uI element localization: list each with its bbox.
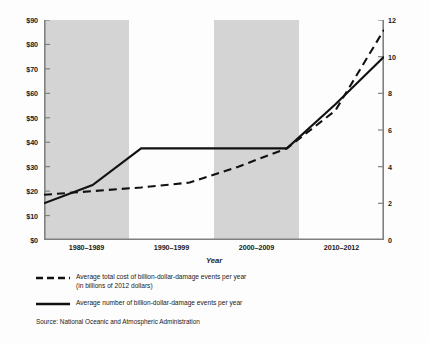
- right-axis-ticklabel: 6: [388, 126, 392, 135]
- right-axis-ticklabel: 0: [388, 236, 392, 245]
- left-axis-ticklabel: $60: [26, 89, 38, 98]
- shaded-band: [214, 20, 299, 240]
- legend-label-cost: Average total cost of billion-dollar-dam…: [70, 272, 246, 290]
- x-axis-ticklabel: 2000–2009: [214, 243, 299, 257]
- right-axis-ticklabel: 8: [388, 89, 392, 98]
- right-axis-ticklabel: 12: [388, 16, 396, 25]
- x-axis-ticklabel: 2010–2012: [299, 243, 384, 257]
- solid-line-key: [36, 298, 70, 307]
- shaded-band: [44, 20, 129, 240]
- left-axis-ticklabel: $80: [26, 40, 38, 49]
- source-note: Source: National Oceanic and Atmospheric…: [36, 318, 200, 325]
- left-axis-ticklabels: $0$10$20$30$40$50$60$70$80$90: [0, 20, 38, 240]
- chart-legend: Average total cost of billion-dollar-dam…: [36, 272, 416, 315]
- legend-label-count: Average number of billion-dollar-damage …: [70, 298, 242, 307]
- x-axis-title: Year: [44, 256, 384, 265]
- left-axis-ticklabel: $10: [26, 211, 38, 220]
- x-axis-ticklabel: 1980–1989: [44, 243, 129, 257]
- legend-item-cost: Average total cost of billion-dollar-dam…: [36, 272, 416, 290]
- x-axis-ticklabel: 1990–1999: [129, 243, 214, 257]
- right-axis-ticklabels: 024681012: [388, 20, 418, 240]
- right-axis-ticklabel: 10: [388, 52, 396, 61]
- left-axis-ticklabel: $20: [26, 187, 38, 196]
- left-axis-ticklabel: $0: [30, 236, 38, 245]
- plot-area: [44, 20, 384, 240]
- right-axis-ticklabel: 2: [388, 199, 392, 208]
- dashed-line-key: [36, 272, 70, 281]
- chart-figure: $0$10$20$30$40$50$60$70$80$90 024681012 …: [0, 0, 429, 343]
- left-axis-ticklabel: $30: [26, 162, 38, 171]
- left-axis-ticklabel: $50: [26, 113, 38, 122]
- left-axis-ticklabel: $70: [26, 64, 38, 73]
- shaded-bands: [44, 20, 299, 240]
- plot-svg: [44, 20, 384, 240]
- x-axis-ticklabels: 1980–19891990–19992000–20092010–2012: [44, 243, 384, 257]
- left-axis-ticklabel: $90: [26, 16, 38, 25]
- right-axis-ticklabel: 4: [388, 162, 392, 171]
- left-axis-ticklabel: $40: [26, 138, 38, 147]
- legend-item-count: Average number of billion-dollar-damage …: [36, 298, 416, 307]
